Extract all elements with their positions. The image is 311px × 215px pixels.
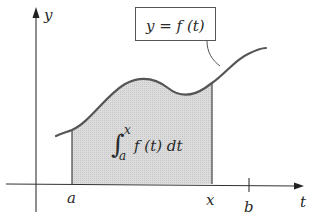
tick-label-x: x <box>206 191 215 209</box>
x-axis <box>6 184 298 186</box>
function-label: y = f (t) <box>145 17 205 35</box>
tick-label-a: a <box>67 189 76 207</box>
x-axis-arrow-icon <box>294 183 304 190</box>
integral-upper-limit: x <box>124 123 131 137</box>
y-axis-label: y <box>43 6 53 24</box>
leader-line <box>207 41 220 66</box>
integral-diagram: y t y = f (t) a x b ∫ x a f (t) dt <box>0 0 311 215</box>
y-axis-arrow-icon <box>33 7 40 18</box>
x-axis-label: t <box>300 193 307 211</box>
integrand: f (t) dt <box>133 137 183 155</box>
integral-lower-limit: a <box>119 149 126 163</box>
tick-label-b: b <box>244 198 254 215</box>
